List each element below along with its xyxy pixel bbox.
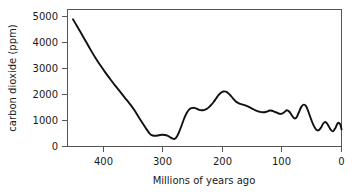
- x-tick-label-400: 400: [94, 156, 113, 167]
- y-tick-label-0: 0: [52, 141, 58, 152]
- x-tick-label-100: 100: [272, 156, 291, 167]
- x-tick-label-300: 300: [153, 156, 172, 167]
- y-tick-label-2000: 2000: [33, 89, 58, 100]
- y-tick-label-3000: 3000: [33, 63, 58, 74]
- y-axis-title: carbon dioxide (ppm): [7, 24, 18, 131]
- x-tick-label-200: 200: [213, 156, 232, 167]
- y-tick-label-1000: 1000: [33, 115, 58, 126]
- x-tick-label-0: 0: [338, 156, 344, 167]
- y-tick-label-5000: 5000: [33, 11, 58, 22]
- y-tick-label-4000: 4000: [33, 37, 58, 48]
- x-axis-title: Millions of years ago: [153, 175, 256, 186]
- chart-figure: 0 1000 2000 3000 4000 5000 400 300 200 1…: [0, 0, 359, 194]
- carbon-dioxide-line-chart: 0 1000 2000 3000 4000 5000 400 300 200 1…: [0, 0, 359, 194]
